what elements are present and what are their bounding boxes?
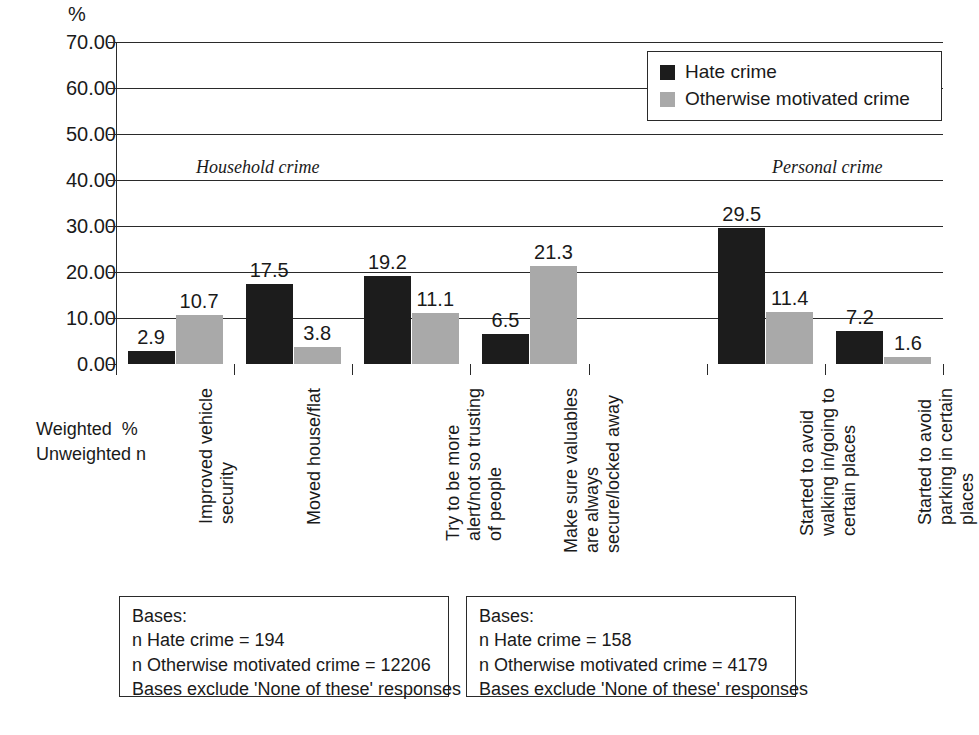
y-axis-tick-label: 0.00 bbox=[44, 354, 116, 374]
bases-line: Bases: bbox=[479, 604, 785, 628]
section-label-personal: Personal crime bbox=[772, 157, 882, 178]
bar-hate-crime bbox=[128, 351, 175, 364]
x-axis-category-label: Make sure valuablesare alwayssecure/lock… bbox=[561, 388, 625, 553]
x-axis-tick-mark bbox=[116, 364, 117, 375]
x-axis-category-label: Started to avoidwalking in/going tocerta… bbox=[797, 388, 861, 536]
bar-value-label: 3.8 bbox=[282, 323, 353, 343]
bar-value-label: 2.9 bbox=[116, 327, 187, 347]
bar-otherwise-motivated-crime bbox=[884, 357, 931, 364]
x-axis-tick-mark bbox=[352, 364, 353, 375]
legend-swatch-icon-hate-crime bbox=[660, 65, 675, 80]
x-axis-tick-mark bbox=[707, 364, 708, 375]
gridline bbox=[116, 42, 943, 43]
x-axis-category-label: Try to be morealert/not so trustingof pe… bbox=[443, 388, 507, 541]
x-axis-category-label-line: security bbox=[217, 388, 238, 524]
x-axis-category-label: Moved house/flat bbox=[304, 388, 325, 525]
bar-value-label: 6.5 bbox=[470, 310, 541, 330]
gridline bbox=[116, 226, 943, 227]
x-axis-tick-mark bbox=[825, 364, 826, 375]
x-axis-category-label-line: parking in certain bbox=[937, 388, 958, 525]
x-axis-category-label-line: Started to avoid bbox=[797, 388, 818, 536]
bar-otherwise-motivated-crime bbox=[412, 313, 459, 364]
weighting-caption-line-1: Weighted % bbox=[36, 419, 138, 439]
bar-hate-crime bbox=[482, 334, 529, 364]
bar-value-label: 11.1 bbox=[400, 289, 471, 309]
x-axis-category-label-line: Improved vehicle bbox=[196, 388, 217, 524]
x-axis-category-label: Improved vehiclesecurity bbox=[196, 388, 238, 524]
x-axis-tick-mark bbox=[589, 364, 590, 375]
bar-value-label: 29.5 bbox=[706, 204, 777, 224]
x-axis-tick-mark bbox=[943, 364, 944, 375]
x-axis-category-label-line: are always bbox=[582, 388, 603, 553]
weighting-caption-line-2: Unweighted n bbox=[36, 444, 146, 464]
y-axis-tick-label: 40.00 bbox=[44, 170, 116, 190]
bar-otherwise-motivated-crime bbox=[766, 312, 813, 364]
bases-line: n Otherwise motivated crime = 12206 bbox=[132, 653, 438, 677]
bar-value-label: 1.6 bbox=[872, 333, 943, 353]
bases-box-household: Bases: n Hate crime = 194 n Otherwise mo… bbox=[119, 596, 449, 697]
bar-value-label: 11.4 bbox=[754, 288, 825, 308]
bar-value-label: 19.2 bbox=[352, 252, 423, 272]
bases-line: n Hate crime = 194 bbox=[132, 628, 438, 652]
bar-value-label: 21.3 bbox=[518, 242, 589, 262]
y-axis-tick-label: 20.00 bbox=[44, 262, 116, 282]
bases-line: n Hate crime = 158 bbox=[479, 628, 785, 652]
y-axis-tick-label: 70.00 bbox=[44, 32, 116, 52]
bases-line: Bases: bbox=[132, 604, 438, 628]
x-axis-category-label-line: secure/locked away bbox=[603, 388, 624, 553]
x-axis-category-label-line: Started to avoid bbox=[915, 388, 936, 525]
bar-value-label: 10.7 bbox=[164, 291, 235, 311]
y-axis-tick-label: 30.00 bbox=[44, 216, 116, 236]
bar-value-label: 7.2 bbox=[824, 307, 895, 327]
x-axis-category-label-line: alert/not so trusting bbox=[464, 388, 485, 541]
x-axis-category-label-line: of people bbox=[485, 388, 506, 541]
bases-line: Bases exclude 'None of these' responses bbox=[479, 677, 785, 701]
y-axis-unit-label: % bbox=[68, 4, 86, 24]
x-axis-tick-mark bbox=[470, 364, 471, 375]
x-axis-category-label-line: walking in/going to bbox=[819, 388, 840, 536]
legend: Hate crime Otherwise motivated crime bbox=[647, 51, 942, 121]
x-axis-category-label-line: certain places bbox=[840, 388, 861, 536]
y-axis-tick-label: 50.00 bbox=[44, 124, 116, 144]
x-axis-category-label-line: Make sure valuables bbox=[561, 388, 582, 553]
legend-label-otherwise-motivated-crime: Otherwise motivated crime bbox=[685, 87, 910, 112]
x-axis-category-label-line: places bbox=[958, 388, 979, 525]
bar-value-label: 17.5 bbox=[234, 260, 305, 280]
legend-item-hate-crime: Hate crime bbox=[660, 59, 931, 86]
weighting-caption: Weighted % Unweighted n bbox=[26, 393, 146, 466]
legend-swatch-icon-otherwise-motivated-crime bbox=[660, 92, 675, 107]
bases-line: n Otherwise motivated crime = 4179 bbox=[479, 653, 785, 677]
bases-line: Bases exclude 'None of these' responses bbox=[132, 677, 438, 701]
y-axis-tick-label: 60.00 bbox=[44, 78, 116, 98]
section-label-household: Household crime bbox=[196, 157, 319, 178]
y-axis-tick-label: 10.00 bbox=[44, 308, 116, 328]
legend-item-otherwise-motivated-crime: Otherwise motivated crime bbox=[660, 86, 931, 113]
bases-box-personal: Bases: n Hate crime = 158 n Otherwise mo… bbox=[466, 596, 796, 697]
bar-otherwise-motivated-crime bbox=[294, 347, 341, 364]
x-axis-category-label-line: Moved house/flat bbox=[304, 388, 325, 525]
gridline bbox=[116, 180, 943, 181]
x-axis-category-label-line: Try to be more bbox=[443, 388, 464, 541]
legend-label-hate-crime: Hate crime bbox=[685, 60, 777, 85]
x-axis-category-label: Started to avoidparking in certainplaces bbox=[915, 388, 979, 525]
x-axis-tick-mark bbox=[234, 364, 235, 375]
gridline bbox=[116, 134, 943, 135]
